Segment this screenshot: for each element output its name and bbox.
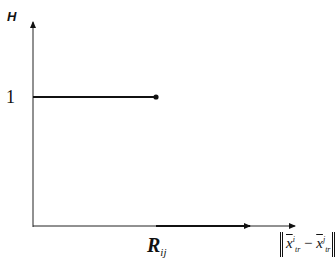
left-term-base: x [286, 235, 293, 251]
left-term-superscript: i [293, 235, 295, 244]
left-term-subscript: tr [295, 245, 300, 254]
r-ij-label: Rij [147, 234, 166, 258]
y-axis-label: H [7, 9, 16, 24]
r-subscript: ij [160, 246, 166, 258]
right-term-subscript: tr [325, 245, 330, 254]
r-base: R [147, 234, 160, 256]
norm-expression: xitr − xjtr [280, 232, 335, 257]
step-endpoint-dot [153, 94, 158, 99]
x-axis-label: xitr − xjtr [280, 232, 335, 257]
y-tick-label-1: 1 [6, 87, 15, 108]
right-term-superscript: j [323, 235, 325, 244]
right-term-base: x [316, 235, 323, 251]
minus-operator: − [304, 235, 312, 251]
